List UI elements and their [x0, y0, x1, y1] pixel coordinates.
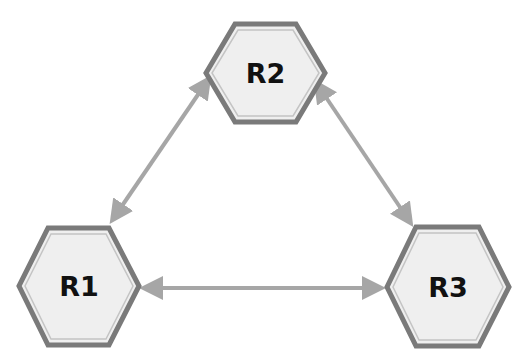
node-r1-label: R1: [59, 271, 99, 302]
edge-r1-r2: [113, 80, 208, 219]
node-r2-label: R2: [246, 58, 286, 89]
node-r3: R3: [387, 227, 509, 346]
edge-r2-r3: [317, 84, 410, 222]
node-r2: R2: [206, 24, 325, 122]
network-diagram: R2 R1 R3: [0, 0, 524, 364]
node-r3-label: R3: [428, 272, 468, 303]
node-r1: R1: [19, 228, 139, 345]
